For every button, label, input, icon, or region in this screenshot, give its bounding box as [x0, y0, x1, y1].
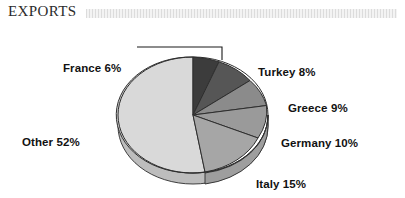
- slice-label-turkey: Turkey 8%: [258, 66, 316, 78]
- slice-label-greece: Greece 9%: [288, 102, 348, 114]
- pie-chart-figure: EXPORTS: [0, 0, 405, 198]
- slice-label-germany: Germany 10%: [281, 137, 358, 149]
- slice-label-italy: Italy 15%: [256, 178, 306, 190]
- chart-header: EXPORTS: [0, 0, 405, 26]
- page-title: EXPORTS: [8, 3, 77, 20]
- chart-stage: France 6% Turkey 8% Greece 9% Germany 10…: [0, 24, 405, 198]
- title-rule-band: [86, 9, 397, 18]
- pie-top-face: [116, 57, 268, 173]
- slice-label-france: France 6%: [63, 62, 121, 74]
- slice-label-other: Other 52%: [22, 136, 80, 148]
